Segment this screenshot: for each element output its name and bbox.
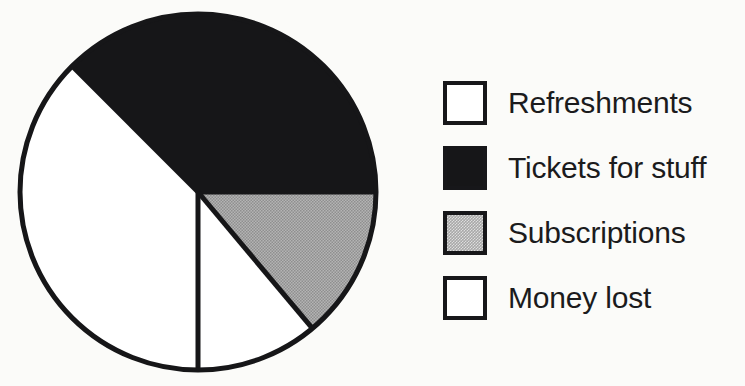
pie-svg — [0, 0, 420, 386]
pie-chart-graphic — [0, 0, 420, 386]
legend-item-tickets-for-stuff[interactable]: Tickets for stuff — [443, 135, 745, 200]
legend-label-refreshments: Refreshments — [508, 88, 692, 118]
legend-swatch-icon-subscriptions — [443, 211, 487, 255]
legend-swatch-icon-refreshments — [443, 81, 487, 125]
chart-legend: Refreshments Tickets for stuff Subscript… — [443, 70, 745, 330]
legend-swatch-icon-tickets-for-stuff — [443, 146, 487, 190]
legend-label-tickets-for-stuff: Tickets for stuff — [508, 153, 706, 183]
legend-item-money-lost[interactable]: Money lost — [443, 265, 745, 330]
legend-item-subscriptions[interactable]: Subscriptions — [443, 200, 745, 265]
legend-swatch-icon-money-lost — [443, 276, 487, 320]
legend-label-money-lost: Money lost — [508, 283, 651, 313]
pie-chart-figure: Refreshments Tickets for stuff Subscript… — [0, 0, 745, 386]
legend-item-refreshments[interactable]: Refreshments — [443, 70, 745, 135]
legend-label-subscriptions: Subscriptions — [508, 218, 686, 248]
